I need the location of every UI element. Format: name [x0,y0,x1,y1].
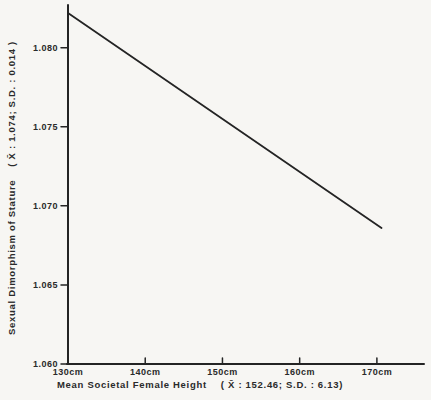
x-tick-label: 150cm [200,367,244,377]
x-tick-label: 170cm [355,367,399,377]
x-tick-label: 140cm [123,367,167,377]
y-axis-title-stats: ( X̄ : 1.074; S.D. : 0.014 ) [6,41,17,167]
chart-figure: Sexual Dimorphism of Stature ( X̄ : 1.07… [0,0,431,400]
plot-area [0,0,431,400]
y-tick-label: 1.075 [18,122,58,132]
regression-line [68,13,382,228]
y-tick-label: 1.060 [18,359,58,369]
y-axis-title-text: Sexual Dimorphism of Stature [6,180,17,335]
x-axis-title-text: Mean Societal Female Height [57,379,207,390]
y-tick-label: 1.080 [18,43,58,53]
y-tick-label: 1.065 [18,280,58,290]
x-tick-label: 160cm [278,367,322,377]
y-tick-label: 1.070 [18,201,58,211]
y-axis-title: Sexual Dimorphism of Stature ( X̄ : 1.07… [6,12,17,364]
x-axis-title: Mean Societal Female Height ( X̄ : 152.4… [58,379,342,390]
x-axis-title-stats: ( X̄ : 152.46; S.D. : 6.13) [221,379,343,390]
